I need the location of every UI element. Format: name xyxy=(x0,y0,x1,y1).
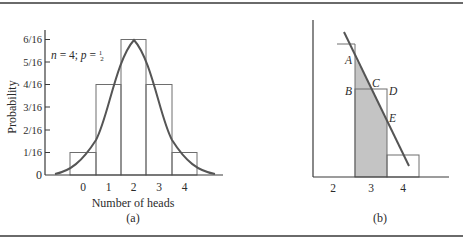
y-tick-labels: 6/16 5/16 4/16 3/16 2/16 1/16 0 xyxy=(23,34,42,182)
xtick-1: 1 xyxy=(106,181,112,193)
bar-4-detail xyxy=(387,155,419,177)
xtick-3: 3 xyxy=(156,181,162,193)
param-annotation: n = 4; p = 12 xyxy=(51,49,104,63)
ytick-6: 6/16 xyxy=(23,34,42,45)
y-axis-label: Probability xyxy=(5,80,19,133)
x-tick-labels-b: 2 3 4 xyxy=(330,182,406,194)
label-E: E xyxy=(388,112,396,124)
label-B: B xyxy=(345,85,352,97)
panel-a: 6/16 5/16 4/16 3/16 2/16 1/16 0 0 1 2 3 … xyxy=(5,30,223,225)
ytick-3: 3/16 xyxy=(23,102,42,113)
panel-label-b: (b) xyxy=(373,211,387,225)
shaded-area xyxy=(355,58,387,177)
xtick-2: 2 xyxy=(131,181,137,193)
xtick-b-3: 3 xyxy=(368,182,374,194)
panel-label-a: (a) xyxy=(126,211,139,225)
label-D: D xyxy=(388,85,398,97)
ytick-5: 5/16 xyxy=(23,57,42,68)
label-C: C xyxy=(372,77,380,89)
x-axis-label: Number of heads xyxy=(92,196,175,210)
xtick-b-4: 4 xyxy=(400,182,406,194)
ytick-4: 4/16 xyxy=(23,79,42,90)
y-ticks xyxy=(45,40,50,153)
ytick-1: 1/16 xyxy=(23,147,42,158)
label-A: A xyxy=(344,54,353,66)
bar-2 xyxy=(121,40,146,176)
x-tick-labels: 0 1 2 3 4 xyxy=(80,181,188,193)
figure: 6/16 5/16 4/16 3/16 2/16 1/16 0 0 1 2 3 … xyxy=(0,0,463,239)
ytick-0: 0 xyxy=(36,168,42,182)
panel-b: A B C D E 2 3 4 (b) xyxy=(313,20,449,225)
ytick-2: 2/16 xyxy=(23,125,42,136)
xtick-4: 4 xyxy=(182,181,188,193)
xtick-0: 0 xyxy=(80,181,86,193)
xtick-b-2: 2 xyxy=(330,182,336,194)
